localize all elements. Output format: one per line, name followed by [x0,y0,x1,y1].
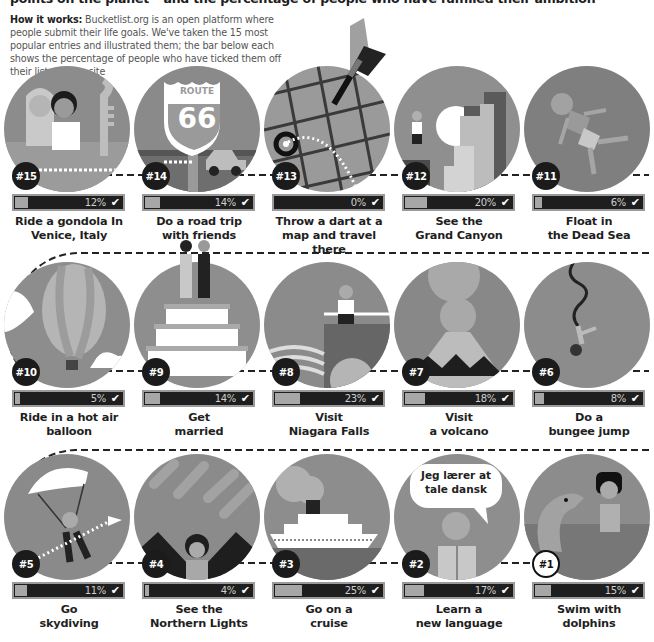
rank-badge: #7 [402,358,430,386]
progress-bar: 17% ✔ [402,582,515,599]
check-icon: ✔ [631,392,640,405]
percent-value: 25% [345,584,366,597]
progress-fill [405,197,427,208]
check-icon: ✔ [501,584,510,597]
progress-fill [275,393,300,404]
rank-badge: #2 [402,550,430,578]
progress-fill [15,197,28,208]
progress-bar: 18% ✔ [402,390,515,407]
progress-fill [535,585,551,596]
percent-value: 18% [475,392,496,405]
item-label: Learn anew language [394,603,524,631]
percent-value: 4% [221,584,236,597]
percent-value: 12% [85,196,106,209]
rank-badge: #9 [142,358,170,386]
progress-fill [535,393,544,404]
check-icon: ✔ [241,196,250,209]
rank-badge: #1 [532,550,560,578]
percent-value: 14% [215,392,236,405]
progress-fill [145,393,160,404]
item-label: VisitNiagara Falls [264,411,394,439]
percent-value: 15% [605,584,626,597]
progress-bar: 0% ✔ [272,194,385,211]
rank-badge: #5 [12,550,40,578]
percent-value: 17% [475,584,496,597]
progress-bar: 14% ✔ [142,194,255,211]
item-label: Throw a dart at amap and travel there [264,215,394,257]
check-icon: ✔ [631,196,640,209]
item-label: Goskydiving [4,603,134,631]
progress-bar: 20% ✔ [402,194,515,211]
rank-badge: #14 [142,162,170,190]
item-label: Float inthe Dead Sea [524,215,654,243]
item-label: See theNorthern Lights [134,603,264,631]
item-label: Ride a gondola InVenice, Italy [4,215,134,243]
item-label: See theGrand Canyon [394,215,524,243]
progress-bar: 25% ✔ [272,582,385,599]
check-icon: ✔ [241,584,250,597]
check-icon: ✔ [631,584,640,597]
dart-icon [320,16,390,136]
speech-bubble-text: Jeg lærer attale dansk [410,468,502,496]
rank-badge: #6 [532,358,560,386]
progress-bar: 4% ✔ [142,582,255,599]
progress-bar: 12% ✔ [12,194,125,211]
check-icon: ✔ [501,392,510,405]
route-sign-number: 66 [171,104,223,134]
percent-value: 23% [345,392,366,405]
rank-badge: #10 [12,358,40,386]
percent-value: 11% [85,584,106,597]
progress-bar: 23% ✔ [272,390,385,407]
progress-fill [405,585,424,596]
check-icon: ✔ [371,584,380,597]
progress-bar: 5% ✔ [12,390,125,407]
percent-value: 5% [91,392,106,405]
percent-value: 14% [215,196,236,209]
progress-bar: 14% ✔ [142,390,255,407]
item-label: Go on acruise [264,603,394,631]
progress-fill [145,197,160,208]
progress-fill [275,585,302,596]
item-label: Getmarried [134,411,264,439]
couple-icon [176,238,216,308]
progress-fill [15,585,27,596]
check-icon: ✔ [371,392,380,405]
rank-badge: #12 [402,162,430,190]
rank-badge: #15 [12,162,40,190]
percent-value: 0% [351,196,366,209]
intro-bold: How it works: [10,14,82,25]
rank-badge: #13 [272,162,300,190]
rank-badge: #8 [272,358,300,386]
route-sign-text: ROUTE [171,86,223,96]
rank-badge: #11 [532,162,560,190]
check-icon: ✔ [111,584,120,597]
rank-badge: #3 [272,550,300,578]
item-label: Visita volcano [394,411,524,439]
item-label: Ride in a hot airballoon [4,411,134,439]
percent-value: 6% [611,196,626,209]
check-icon: ✔ [111,392,120,405]
check-icon: ✔ [111,196,120,209]
progress-bar: 11% ✔ [12,582,125,599]
progress-bar: 6% ✔ [532,194,645,211]
check-icon: ✔ [241,392,250,405]
item-label: Swim withdolphins [524,603,654,631]
progress-bar: 15% ✔ [532,582,645,599]
check-icon: ✔ [501,196,510,209]
progress-fill [535,197,542,208]
percent-value: 20% [475,196,496,209]
page-title: points on the planet – and the percentag… [10,0,595,6]
progress-fill [15,393,20,404]
progress-bar: 8% ✔ [532,390,645,407]
check-icon: ✔ [371,196,380,209]
progress-fill [405,393,425,404]
percent-value: 8% [611,392,626,405]
rank-badge: #4 [142,550,170,578]
progress-fill [145,585,149,596]
item-label: Do abungee jump [524,411,654,439]
